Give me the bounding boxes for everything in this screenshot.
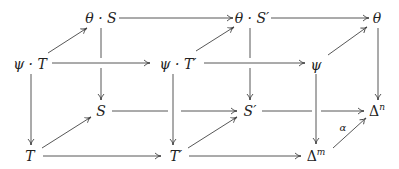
diagram-arrows (0, 0, 399, 169)
commutative-diagram: θ · S θ · S′ θ ψ · T ψ · T′ ψ S S′ Δn T … (0, 0, 399, 169)
node-Delta-m-base: Δ (307, 148, 317, 164)
node-S-prime: S′ (244, 104, 257, 118)
node-theta: θ (373, 11, 381, 25)
node-psi: ψ (311, 58, 322, 72)
node-theta-S-prime: θ · S′ (235, 11, 270, 25)
arrow-psiT-thetaS (48, 28, 87, 53)
node-S: S (96, 104, 106, 118)
node-Delta-m-sup: m (317, 147, 326, 157)
node-Delta-m: Δm (307, 148, 326, 163)
node-T-prime: T′ (170, 149, 183, 163)
node-Delta-n: Δn (369, 103, 385, 118)
node-psi-T-prime: ψ · T′ (160, 57, 197, 71)
node-Delta-n-base: Δ (369, 103, 379, 119)
arrow-T-S (42, 117, 91, 148)
node-psi-T: ψ · T (13, 57, 47, 71)
node-theta-S: θ · S (85, 11, 116, 25)
edge-label-alpha: α (340, 122, 347, 133)
arrow-psi-theta (328, 27, 367, 55)
arrow-Tp-Sp (188, 117, 237, 148)
arrow-psiTp-thetaSp (196, 27, 234, 51)
node-Delta-n-sup: n (379, 102, 385, 112)
node-T: T (25, 149, 34, 163)
arrow-DeltaM-DeltaN (333, 118, 366, 148)
